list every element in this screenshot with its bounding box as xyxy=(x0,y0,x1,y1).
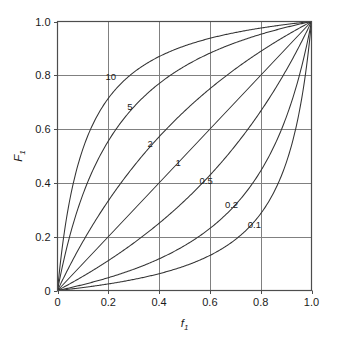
y-tick-label: 0 xyxy=(44,285,50,297)
curve-label-2: 2 xyxy=(148,138,153,149)
y-tick-label: 0.6 xyxy=(35,123,50,135)
x-tick-label: 0.6 xyxy=(202,296,217,308)
x-tick-label: 0 xyxy=(54,296,60,308)
y-tick-label: 0.4 xyxy=(35,177,50,189)
x-tick-label: 1.0 xyxy=(304,296,319,308)
x-tick-label: 0.8 xyxy=(253,296,268,308)
chart-background xyxy=(0,0,341,337)
y-tick-label: 1.0 xyxy=(35,16,50,28)
y-axis-title-subscript: 1 xyxy=(18,150,27,154)
x-axis-title-subscript: 1 xyxy=(184,323,188,332)
x-tick-label: 0.4 xyxy=(151,296,166,308)
y-tick-label: 0.8 xyxy=(35,69,50,81)
curve-label-0.2: 0.2 xyxy=(225,199,238,210)
curve-label-10: 10 xyxy=(106,71,117,82)
curve-label-1: 1 xyxy=(176,157,181,168)
chart-figure: 00.20.40.60.81.0 00.20.40.60.81.0 105210… xyxy=(0,0,341,337)
curve-label-0.1: 0.1 xyxy=(248,219,261,230)
x-tick-label: 0.2 xyxy=(101,296,116,308)
vle-equilibrium-chart: 00.20.40.60.81.0 00.20.40.60.81.0 105210… xyxy=(0,0,341,337)
curve-label-0.5: 0.5 xyxy=(199,175,212,186)
curve-label-5: 5 xyxy=(127,101,132,112)
y-tick-label: 0.2 xyxy=(35,231,50,243)
